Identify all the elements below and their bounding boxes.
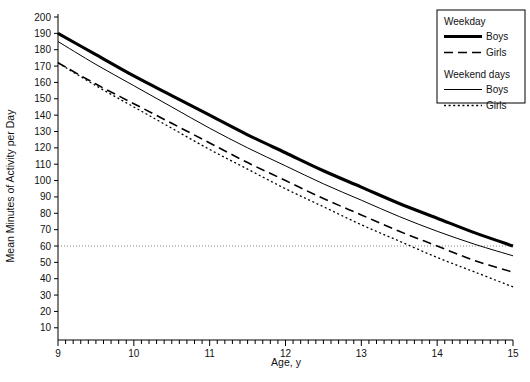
y-tick-label-160: 160 xyxy=(34,77,51,88)
y-axis-title: Mean Minutes of Activity per Day xyxy=(4,109,16,263)
x-tick-label-14: 14 xyxy=(432,348,444,359)
y-tick-label-140: 140 xyxy=(34,110,51,121)
y-tick-label-90: 90 xyxy=(40,191,52,202)
y-tick-label-30: 30 xyxy=(40,290,52,301)
y-tick-label-120: 120 xyxy=(34,142,51,153)
legend-label-weekend-days-boys: Boys xyxy=(486,84,508,95)
y-tick-label-170: 170 xyxy=(34,61,51,72)
x-tick-label-13: 13 xyxy=(356,348,368,359)
y-tick-label-190: 190 xyxy=(34,28,51,39)
y-tick-label-150: 150 xyxy=(34,93,51,104)
x-tick-label-10: 10 xyxy=(128,348,140,359)
line-chart-canvas: 1020304050607080901001101201301401501601… xyxy=(0,0,530,382)
legend-label-weekday-boys: Boys xyxy=(486,31,508,42)
y-tick-label-110: 110 xyxy=(35,159,51,170)
x-axis-title: Age, y xyxy=(271,356,302,368)
y-tick-label-200: 200 xyxy=(34,12,51,23)
legend-label-weekend-days-girls: Girls xyxy=(486,100,507,111)
y-tick-label-50: 50 xyxy=(40,257,52,268)
legend-heading-weekday: Weekday xyxy=(444,16,486,27)
legend: WeekdayBoysGirlsWeekend daysBoysGirls xyxy=(437,10,525,111)
y-tick-label-40: 40 xyxy=(40,273,52,284)
y-tick-label-20: 20 xyxy=(40,306,52,317)
y-tick-label-80: 80 xyxy=(40,208,52,219)
x-tick-label-11: 11 xyxy=(204,348,215,359)
y-tick-label-130: 130 xyxy=(34,126,51,137)
chart-figure: 1020304050607080901001101201301401501601… xyxy=(0,0,530,382)
y-tick-label-180: 180 xyxy=(34,44,51,55)
y-tick-label-10: 10 xyxy=(40,322,52,333)
y-tick-label-60: 60 xyxy=(40,241,52,252)
y-tick-label-100: 100 xyxy=(34,175,51,186)
y-tick-label-70: 70 xyxy=(40,224,52,235)
x-tick-label-15: 15 xyxy=(507,348,519,359)
x-tick-label-9: 9 xyxy=(55,348,61,359)
legend-heading-weekend-days: Weekend days xyxy=(444,69,510,80)
legend-label-weekday-girls: Girls xyxy=(486,47,507,58)
